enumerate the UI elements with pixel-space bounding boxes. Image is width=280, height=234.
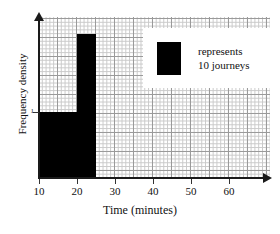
legend-swatch-icon [157,42,181,75]
x-axis-tick [39,179,40,184]
legend-line-1: represents [198,44,250,58]
histogram-figure: 1020304050601 Time (minutes) Frequency d… [0,0,280,234]
x-axis-tick [191,179,192,184]
histogram-bar [39,112,77,177]
x-axis-tick-label: 30 [103,185,127,197]
x-axis-tick-label: 10 [27,185,51,197]
legend-box: represents 10 journeys [143,28,272,88]
cropped-text-sliver [0,0,280,5]
legend-line-2: 10 journeys [198,58,250,72]
y-axis-title: Frequency density [16,24,28,164]
x-axis-tick-label: 50 [179,185,203,197]
x-axis-arrow-icon [263,173,272,183]
x-axis-line [38,177,264,179]
x-axis-tick-label: 40 [141,185,165,197]
x-axis-title: Time (minutes) [0,203,280,218]
x-axis-tick [115,179,116,184]
x-axis-tick-label: 60 [217,185,241,197]
y-axis-arrow-icon [34,12,44,21]
x-axis-tick [77,179,78,184]
x-axis-tick [229,179,230,184]
y-axis-line [38,19,40,179]
x-axis-tick [153,179,154,184]
legend-text: represents 10 journeys [198,44,250,72]
x-axis-tick-label: 20 [65,185,89,197]
histogram-bar [77,34,96,177]
